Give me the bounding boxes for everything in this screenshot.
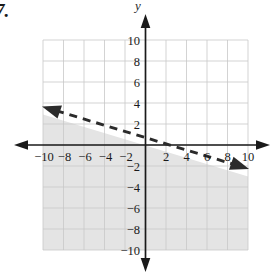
x-tick: −10 [34, 150, 54, 164]
coordinate-plane: −10 −8 −6 −4 −2 2 4 6 8 10 10 8 6 4 2 −2… [0, 0, 273, 276]
svg-text:4: 4 [134, 97, 141, 111]
svg-text:2: 2 [163, 150, 169, 164]
svg-text:10: 10 [128, 34, 141, 48]
svg-text:−6: −6 [127, 202, 140, 216]
svg-text:10: 10 [242, 150, 255, 164]
svg-text:6: 6 [204, 150, 210, 164]
svg-text:2: 2 [134, 118, 140, 132]
svg-text:6: 6 [134, 76, 140, 90]
svg-text:8: 8 [224, 150, 230, 164]
svg-text:−2: −2 [127, 160, 140, 174]
graph-figure: 7. y [0, 0, 273, 276]
svg-text:−6: −6 [78, 150, 91, 164]
svg-text:8: 8 [134, 55, 140, 69]
svg-text:4: 4 [183, 150, 190, 164]
svg-text:−4: −4 [127, 181, 141, 195]
svg-text:−8: −8 [127, 223, 140, 237]
svg-text:−10: −10 [120, 244, 140, 258]
svg-text:−4: −4 [99, 150, 113, 164]
svg-text:−8: −8 [58, 150, 71, 164]
